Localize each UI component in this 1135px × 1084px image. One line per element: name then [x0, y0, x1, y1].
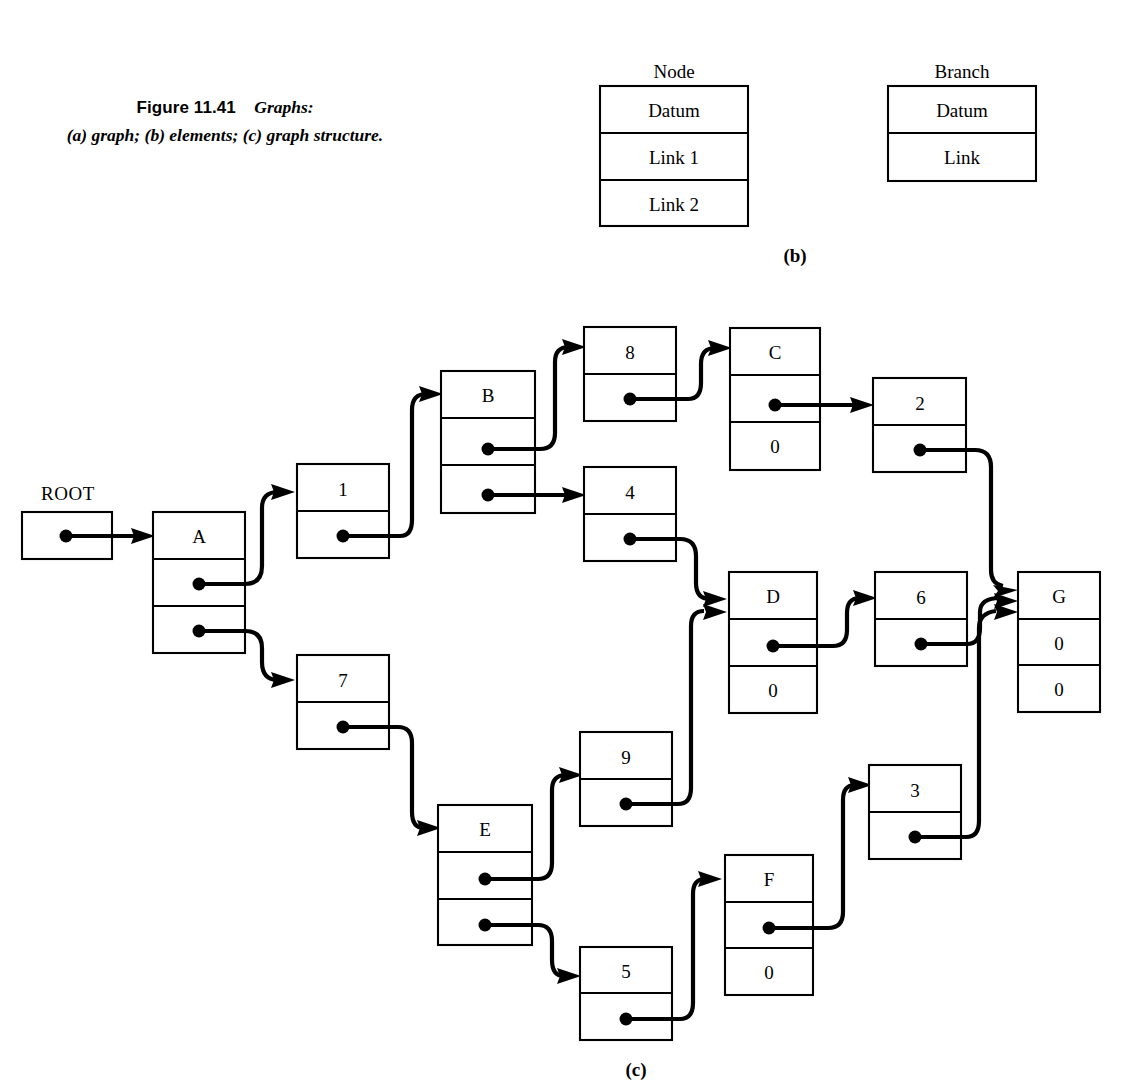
node-a-datum: A [192, 526, 206, 547]
branch-1-datum: 1 [338, 479, 348, 500]
node-e-datum: E [479, 819, 491, 840]
legend-node-cell-datum: Datum [648, 100, 700, 121]
node-g: G 0 0 [1018, 572, 1100, 712]
root-pointer-box: ROOT [22, 483, 155, 559]
branch-4-datum: 4 [625, 482, 635, 503]
edge-c-link1-arrowhead [850, 397, 874, 413]
branch-2-datum: 2 [915, 393, 925, 414]
node-g-link1-null: 0 [1054, 633, 1064, 654]
legend-node-cell-link2: Link 2 [649, 194, 699, 215]
branch-4: 4 [584, 467, 676, 561]
node-d-datum: D [766, 586, 780, 607]
branch-9-datum: 9 [621, 747, 631, 768]
legend-node-title: Node [653, 61, 694, 82]
legend-branch-element: Branch Datum Link [888, 61, 1036, 181]
branch-8: 8 [584, 327, 676, 421]
edge-branch-9-arrowhead [703, 604, 727, 620]
edge-branch-5-arrowhead [698, 871, 722, 887]
legend-branch-cell-datum: Datum [936, 100, 988, 121]
root-label: ROOT [41, 483, 95, 504]
branch-9: 9 [580, 732, 672, 826]
branch-1: 1 [297, 464, 389, 558]
node-b: B [441, 371, 535, 513]
node-c-datum: C [769, 342, 782, 363]
branch-7-datum: 7 [338, 670, 348, 691]
node-d: D 0 [729, 572, 817, 713]
node-f-link2-null: 0 [764, 962, 774, 983]
edge-branch-1-arrowhead [419, 386, 443, 402]
legend-branch-cell-link: Link [944, 147, 980, 168]
branch-7: 7 [297, 655, 389, 749]
edge-d-link1-arrowhead [853, 590, 877, 606]
edge-branch-4-arrowhead [703, 591, 727, 607]
edge-e-link2-arrowhead [557, 968, 581, 984]
node-g-link2-null: 0 [1054, 679, 1064, 700]
root-to-a-arrowhead [131, 528, 155, 544]
legend-branch-title: Branch [935, 61, 990, 82]
branch-5-datum: 5 [621, 961, 631, 982]
edge-branch-8-arrowhead [708, 340, 732, 356]
node-f-datum: F [764, 869, 775, 890]
legend-node-cell-link1: Link 1 [649, 147, 699, 168]
node-b-datum: B [482, 385, 495, 406]
edge-a-link2-arrowhead [271, 672, 295, 688]
node-g-datum: G [1052, 586, 1066, 607]
panel-c-tag: (c) [625, 1059, 646, 1081]
node-c: C 0 [730, 328, 820, 470]
branch-3-datum: 3 [910, 780, 920, 801]
edge-a-link1-arrowhead [271, 484, 295, 500]
panel-b-tag: (b) [783, 245, 806, 267]
branch-8-datum: 8 [625, 342, 635, 363]
branch-2: 2 [873, 378, 966, 472]
node-c-link2-null: 0 [770, 436, 780, 457]
node-f: F 0 [725, 855, 813, 995]
branch-6-datum: 6 [916, 587, 926, 608]
graph-structure-figure: Node Datum Link 1 Link 2 Branch Datum Li… [0, 0, 1135, 1084]
edge-b-link2-arrowhead [562, 487, 586, 503]
edge-b-link1-arrowhead [562, 339, 586, 355]
branch-6: 6 [875, 572, 967, 666]
branch-5: 5 [580, 947, 672, 1040]
legend-node-element: Node Datum Link 1 Link 2 [600, 61, 748, 226]
edge-branch-3-arrowhead [994, 604, 1018, 620]
branch-3: 3 [869, 765, 961, 859]
node-d-link2-null: 0 [768, 680, 778, 701]
